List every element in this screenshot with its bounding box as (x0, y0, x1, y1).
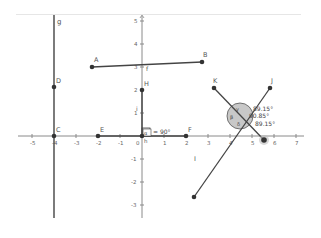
line-g-label: g (57, 18, 61, 26)
point-e-label: E (100, 126, 104, 134)
point-h[interactable] (140, 88, 145, 93)
x-tick-label: -5 (30, 140, 36, 146)
x-tick-label: 6 (273, 140, 277, 146)
x-tick-label: 5 (251, 140, 255, 146)
y-tick-label: -2 (131, 179, 136, 185)
point-a-label: A (94, 56, 99, 64)
point-e[interactable] (96, 134, 101, 139)
point-a[interactable] (90, 65, 95, 70)
angle-gamma-value: 90.85° (249, 112, 269, 119)
point-j[interactable] (268, 86, 273, 91)
point-j-label: J (270, 77, 273, 85)
y-tick-label: 4 (134, 41, 138, 47)
point-k[interactable] (212, 86, 217, 91)
point-f[interactable] (184, 134, 189, 139)
point-f-label: F (188, 126, 192, 134)
point-origin[interactable] (140, 134, 145, 139)
graphics-view[interactable]: -5 -4 -3 -2 -1 0 1 2 3 4 5 6 7 5 4 3 2 1… (0, 0, 321, 238)
point-c-label: C (56, 126, 61, 134)
x-tick-label: -3 (74, 140, 80, 146)
point-k-label: K (213, 77, 218, 85)
angle-gamma-label: γ (236, 106, 239, 113)
point-i[interactable] (192, 195, 197, 200)
x-tick-label: 1 (163, 140, 167, 146)
x-tick-label: 2 (185, 140, 189, 146)
right-angle-value: = 90° (153, 128, 171, 135)
point-d-label: D (56, 77, 61, 85)
angle-delta-label: δ (237, 121, 240, 127)
point-c[interactable] (52, 134, 57, 139)
point-l[interactable] (261, 137, 267, 143)
y-tick-label: 5 (134, 18, 138, 24)
point-b-label: B (203, 51, 207, 59)
point-h-label: H (144, 80, 149, 88)
y-tick-label: -1 (131, 156, 136, 162)
angle-beta-label: β (230, 114, 233, 121)
point-i-label: I (194, 155, 196, 163)
point-d[interactable] (52, 85, 57, 90)
x-tick-label: -2 (96, 140, 101, 146)
origin-label: 0 (136, 140, 140, 146)
y-tick-label: -3 (131, 202, 137, 208)
x-tick-label: 3 (207, 140, 211, 146)
y-tick-label: 2 (134, 87, 138, 93)
x-tick-label: 7 (295, 140, 299, 146)
angle-delta-value: 89.15° (255, 120, 275, 127)
x-tick-label: -1 (118, 140, 123, 146)
angle-epsilon-value: 89.15° (253, 105, 273, 112)
line-h-label: h (144, 138, 148, 144)
segment-i-label: i (136, 105, 138, 112)
segment-f-label: f (146, 65, 149, 72)
point-b[interactable] (200, 60, 205, 65)
x-tick-label: -4 (52, 140, 58, 146)
